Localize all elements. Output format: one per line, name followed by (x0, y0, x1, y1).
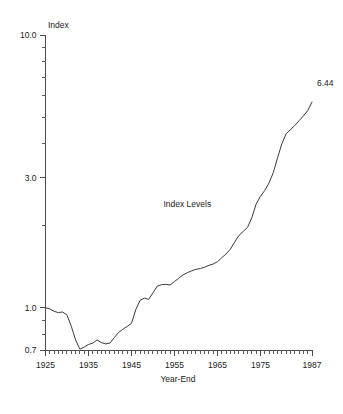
x-axis-title: Year-End (160, 374, 195, 384)
series-annotation-index-levels: Index Levels (163, 199, 211, 209)
x-tick-label: 1975 (251, 360, 270, 370)
x-axis-tick-labels: 1925193519451955196519751987 (36, 360, 322, 370)
y-tick-label: 0.7 (25, 345, 37, 355)
endpoint-value-label: 6.44 (317, 78, 334, 88)
x-tick-label: 1935 (79, 360, 98, 370)
axes-group (46, 35, 313, 351)
x-tick-label: 1955 (165, 360, 184, 370)
x-tick-label: 1987 (303, 360, 322, 370)
index-levels-chart: 10.03.01.00.7 19251935194519551965197519… (0, 0, 343, 414)
y-axis-ticks (40, 35, 46, 350)
index-levels-line (46, 102, 313, 349)
chart-plot-area: 10.03.01.00.7 19251935194519551965197519… (0, 0, 343, 414)
y-axis-title: Index (48, 20, 70, 30)
x-tick-label: 1945 (122, 360, 141, 370)
x-tick-label: 1965 (208, 360, 227, 370)
y-tick-label: 10.0 (20, 30, 37, 40)
y-axis-tick-labels: 10.03.01.00.7 (20, 30, 37, 355)
x-tick-label: 1925 (36, 360, 55, 370)
y-tick-label: 3.0 (25, 173, 37, 183)
y-tick-label: 1.0 (25, 303, 37, 313)
